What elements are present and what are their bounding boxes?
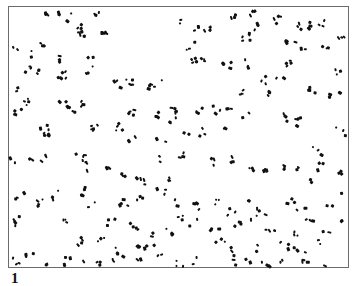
particle xyxy=(50,195,54,199)
particle xyxy=(311,219,315,223)
particle xyxy=(57,100,62,105)
particle xyxy=(196,218,199,221)
particle xyxy=(41,198,43,200)
particle xyxy=(293,41,297,44)
particle xyxy=(203,133,207,136)
particle xyxy=(22,191,27,196)
particle xyxy=(62,219,64,222)
particle xyxy=(249,13,253,17)
particle xyxy=(198,134,202,138)
particle xyxy=(30,55,34,59)
particle xyxy=(241,35,244,39)
particle xyxy=(18,215,21,218)
particle xyxy=(73,111,76,114)
particle xyxy=(296,234,298,236)
particle xyxy=(256,207,258,211)
particle xyxy=(321,45,325,49)
particle xyxy=(325,204,328,207)
particle xyxy=(321,25,325,28)
particle xyxy=(298,22,301,26)
particle xyxy=(120,128,124,132)
particle xyxy=(316,149,320,152)
particle xyxy=(128,221,132,225)
particle xyxy=(76,26,80,30)
particle xyxy=(323,264,327,267)
particle xyxy=(304,218,308,221)
particle xyxy=(28,66,31,68)
particle xyxy=(229,60,233,64)
particle xyxy=(175,265,178,268)
particle xyxy=(98,263,101,266)
particle xyxy=(340,192,343,195)
particle xyxy=(76,243,80,247)
particle xyxy=(266,94,269,98)
particle xyxy=(64,70,67,74)
particle xyxy=(342,129,345,133)
particle xyxy=(39,126,43,130)
particle xyxy=(46,124,49,127)
particle xyxy=(161,79,163,81)
particle xyxy=(268,229,272,233)
particle xyxy=(39,159,43,163)
particle xyxy=(300,47,303,51)
particle xyxy=(334,68,337,71)
particle xyxy=(272,17,276,21)
particle xyxy=(118,86,123,90)
particle xyxy=(132,109,136,112)
particle xyxy=(170,231,175,236)
particle xyxy=(121,254,126,259)
particle xyxy=(79,27,83,31)
particle xyxy=(212,105,215,108)
particle-scatter xyxy=(0,0,354,286)
particle xyxy=(122,198,126,201)
particle xyxy=(215,199,217,201)
particle xyxy=(153,86,156,88)
particle xyxy=(169,107,173,109)
particle xyxy=(92,127,95,130)
particle xyxy=(292,200,296,204)
particle xyxy=(293,230,295,233)
particle xyxy=(200,106,204,110)
particle xyxy=(293,233,296,237)
particle xyxy=(160,253,164,256)
particle xyxy=(16,48,19,52)
particle xyxy=(182,265,184,268)
particle xyxy=(286,242,290,246)
particle xyxy=(148,84,151,87)
particle xyxy=(248,260,252,265)
particle xyxy=(253,28,256,32)
particle xyxy=(156,110,160,114)
particle xyxy=(14,197,17,200)
particle xyxy=(213,111,218,116)
particle xyxy=(187,132,191,136)
particle xyxy=(304,251,308,254)
particle xyxy=(313,91,316,94)
particle xyxy=(285,119,289,123)
particle xyxy=(285,202,290,206)
particle xyxy=(212,157,215,161)
particle xyxy=(308,25,312,28)
particle xyxy=(295,208,299,211)
particle xyxy=(97,240,99,242)
particle xyxy=(65,221,69,224)
particle xyxy=(13,112,18,116)
particle xyxy=(156,254,159,258)
particle xyxy=(193,29,196,32)
particle xyxy=(290,197,294,201)
particle xyxy=(170,121,172,124)
particle xyxy=(303,207,307,210)
particle xyxy=(143,183,146,186)
particle xyxy=(308,21,312,25)
particle xyxy=(219,237,223,241)
particle xyxy=(127,139,132,144)
particle xyxy=(186,49,188,51)
particle xyxy=(86,169,89,173)
particle xyxy=(234,210,237,214)
particle xyxy=(95,260,99,263)
particle xyxy=(81,103,85,106)
particle xyxy=(57,190,59,192)
particle xyxy=(274,21,278,25)
particle xyxy=(12,256,15,259)
particle xyxy=(175,260,178,263)
particle xyxy=(234,263,238,267)
